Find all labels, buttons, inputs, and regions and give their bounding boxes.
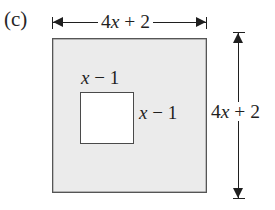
right-dimension-label-text: 4x + 2 — [211, 101, 260, 122]
arrowhead-right-icon — [196, 17, 206, 27]
inner-square-top-label: x − 1 — [81, 68, 119, 87]
inner-square-hole-shape — [80, 92, 134, 144]
inner-square-right-label-text: x − 1 — [139, 102, 177, 123]
geometry-figure-panel: (c) 4x + 2 x − 1 x − 1 4x + 2 — [0, 0, 275, 210]
top-dimension-label-text: 4x + 2 — [101, 11, 150, 32]
part-label: (c) — [4, 9, 27, 30]
inner-square-right-label: x − 1 — [139, 103, 177, 122]
arrowhead-up-icon — [233, 33, 243, 43]
arrowhead-down-icon — [233, 188, 243, 198]
arrowhead-left-icon — [53, 17, 63, 27]
top-dimension-label: 4x + 2 — [98, 12, 153, 31]
inner-square-top-label-text: x − 1 — [81, 67, 119, 88]
right-dimension-label: 4x + 2 — [209, 102, 262, 121]
